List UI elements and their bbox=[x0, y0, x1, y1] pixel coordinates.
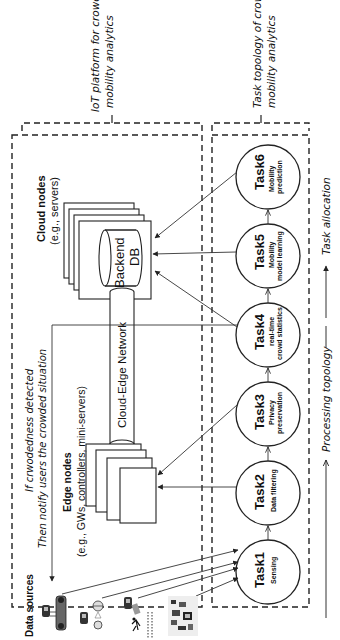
task-topology-brace bbox=[212, 123, 309, 131]
task1-node[interactable]: Task1 Sensing bbox=[236, 540, 300, 604]
task4-node[interactable]: Task4 real-time crowd statistics bbox=[236, 303, 300, 367]
cctv-camera-icon bbox=[124, 597, 141, 615]
svg-text:prediction: prediction bbox=[276, 160, 284, 194]
task5-node[interactable]: Task5 Mobility model learning bbox=[236, 224, 300, 288]
svg-text:Data filtering: Data filtering bbox=[270, 469, 278, 512]
data-source-icons bbox=[42, 596, 198, 638]
svg-text:Task allocation: Task allocation bbox=[320, 177, 332, 255]
svg-text:mobility analytics: mobility analytics bbox=[103, 15, 115, 108]
svg-text:Sensing: Sensing bbox=[270, 557, 278, 584]
backend-db-label: Backend bbox=[112, 237, 127, 288]
sensor-board-icon bbox=[168, 596, 198, 636]
svg-text:Processing topology: Processing topology bbox=[320, 346, 332, 452]
task3-node[interactable]: Task3 Privacy preservation bbox=[236, 382, 300, 446]
cctv-camera-icon bbox=[80, 612, 88, 624]
svg-text:Task2: Task2 bbox=[252, 474, 267, 510]
iot-platform-brace bbox=[22, 123, 202, 131]
wifi-signal-icon bbox=[93, 601, 103, 629]
svg-text:Task6: Task6 bbox=[252, 154, 267, 190]
svg-text:Mobility: Mobility bbox=[268, 165, 276, 192]
svg-text:(e.g., servers): (e.g., servers) bbox=[48, 177, 60, 245]
task-chain: Task6 Mobility prediction Task5 Mobility… bbox=[236, 145, 300, 604]
data-sources-label: Data sources bbox=[24, 574, 35, 637]
cloud-nodes-stack: Backend DB bbox=[64, 203, 151, 299]
task-allocation-axis: Task allocation bbox=[320, 177, 332, 318]
svg-text:If crwodedness detected: If crwodedness detected bbox=[24, 368, 35, 492]
task6-node[interactable]: Task6 Mobility prediction bbox=[236, 145, 300, 209]
svg-text:DB: DB bbox=[127, 248, 142, 266]
cctv-camera-icon bbox=[42, 605, 50, 617]
svg-text:Task3: Task3 bbox=[252, 394, 267, 430]
svg-text:Then notify users the crowded: Then notify users the crowded situation bbox=[37, 349, 48, 548]
crowd-mobility-diagram: IoT platform for crowd mobility analytic… bbox=[0, 0, 340, 640]
notify-users-label: If crwodedness detected Then notify user… bbox=[24, 349, 48, 548]
svg-text:preservation: preservation bbox=[276, 392, 284, 434]
svg-text:mobility analytics: mobility analytics bbox=[265, 15, 277, 108]
svg-text:Mobility: Mobility bbox=[268, 241, 276, 268]
svg-text:Cloud nodes: Cloud nodes bbox=[35, 175, 47, 242]
processing-topology-axis: Processing topology bbox=[320, 326, 332, 618]
svg-text:Edge nodes: Edge nodes bbox=[61, 452, 73, 512]
iot-platform-label: IoT platform for crowd mobility analytic… bbox=[89, 0, 115, 112]
svg-text:Task4: Task4 bbox=[252, 313, 267, 350]
task2-node[interactable]: Task2 Data filtering bbox=[236, 461, 300, 525]
allocation-arrows bbox=[153, 172, 237, 487]
bus-icon bbox=[50, 596, 66, 630]
svg-text:Privacy: Privacy bbox=[268, 400, 276, 425]
network-label: Cloud-Edge Network bbox=[116, 322, 128, 428]
cloud-edge-network-pipe: Cloud-Edge Network bbox=[110, 288, 134, 448]
svg-text:Task topology of crowd: Task topology of crowd bbox=[251, 0, 263, 108]
svg-text:Task5: Task5 bbox=[252, 234, 267, 270]
svg-text:Task1: Task1 bbox=[252, 552, 267, 588]
edge-nodes-stack bbox=[86, 444, 156, 523]
svg-text:model learning: model learning bbox=[276, 231, 284, 281]
pedestrian-icon bbox=[132, 612, 152, 638]
cloud-nodes-label: Cloud nodes (e.g., servers) bbox=[35, 175, 60, 245]
task-topology-label: Task topology of crowd mobility analytic… bbox=[251, 0, 277, 108]
svg-text:real-time: real-time bbox=[268, 317, 275, 346]
edge-nodes-label: Edge nodes (e.g., GWs, controllers, mini… bbox=[61, 386, 87, 557]
svg-text:(e.g., GWs, controllers, mini-: (e.g., GWs, controllers, mini-servers) bbox=[75, 386, 87, 557]
svg-text:crowd statistics: crowd statistics bbox=[276, 307, 283, 360]
svg-text:IoT platform for crowd: IoT platform for crowd bbox=[89, 0, 101, 112]
